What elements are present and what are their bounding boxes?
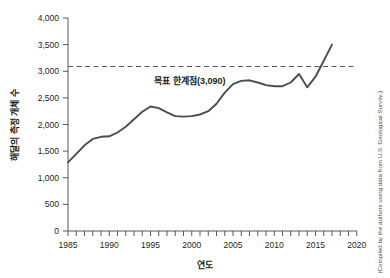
y-label-1000: 1,000 xyxy=(38,173,60,183)
otter-population-line-chart: 0 500 1,000 1,500 2,000 2,500 3,000 3,50… xyxy=(0,0,390,278)
target-threshold-label: 목표 한계점(3,090) xyxy=(154,75,225,86)
source-note: (Compiled by the authors using data from… xyxy=(376,91,388,274)
y-label-2000: 2,000 xyxy=(38,120,60,130)
x-label-2010: 2010 xyxy=(265,240,284,250)
x-label-2000: 2000 xyxy=(182,240,201,250)
x-label-2020: 2020 xyxy=(347,240,366,250)
y-label-3000: 3,000 xyxy=(38,66,60,76)
y-label-2500: 2,500 xyxy=(38,93,60,103)
y-label-4000: 4,000 xyxy=(38,13,60,23)
x-label-1990: 1990 xyxy=(100,240,119,250)
y-axis-title: 해달의 측정 개체 수 xyxy=(9,89,20,161)
y-label-3500: 3,500 xyxy=(38,40,60,50)
x-label-2015: 2015 xyxy=(306,240,325,250)
y-label-1500: 1,500 xyxy=(38,146,60,156)
y-label-500: 500 xyxy=(45,199,59,209)
x-axis-title: 연도 xyxy=(197,260,214,270)
chart-figure: 0 500 1,000 1,500 2,000 2,500 3,000 3,50… xyxy=(0,0,390,278)
x-label-1985: 1985 xyxy=(59,240,78,250)
x-label-1995: 1995 xyxy=(141,240,160,250)
y-label-0: 0 xyxy=(54,226,59,236)
x-label-2005: 2005 xyxy=(224,240,243,250)
